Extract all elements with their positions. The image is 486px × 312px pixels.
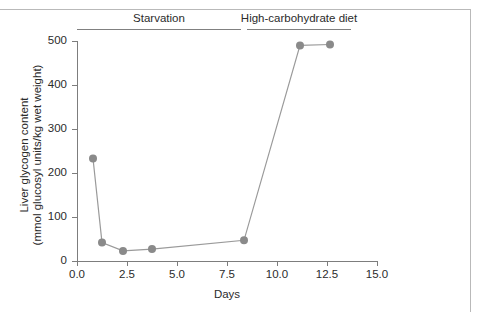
data-point-marker [119,247,127,255]
data-point-marker [240,236,248,244]
x-axis-title: Days [0,288,454,300]
figure-canvas: Starvation High-carbohydrate diet 010020… [0,0,486,312]
data-point-marker [296,41,304,49]
data-point-marker [89,155,97,163]
data-series-layer [0,0,486,312]
data-point-marker [98,239,106,247]
y-axis-title: Liver glycogen content (mmol glucosyl un… [18,40,34,270]
data-point-marker [326,41,334,49]
y-axis-title-line1: Liver glycogen content [18,40,31,270]
series-line [93,45,330,251]
data-point-marker [148,245,156,253]
plot-area: Starvation High-carbohydrate diet 010020… [0,0,486,312]
y-axis-title-line2: (mmol glucosyl units/kg wet weight) [31,40,44,270]
